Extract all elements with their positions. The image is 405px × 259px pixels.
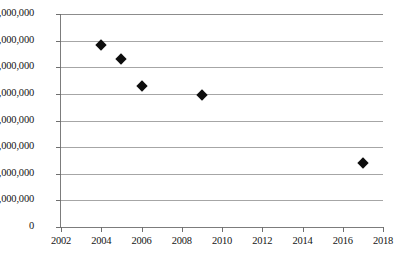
y-axis-label: 8,000,000 (0, 115, 34, 126)
y-axis-tick (56, 94, 61, 95)
y-axis-tick (56, 67, 61, 68)
x-axis-tick (142, 227, 143, 232)
x-axis-tick (101, 227, 102, 232)
y-axis-label: 12,000,000 (0, 61, 34, 72)
y-axis-label: 10,000,000 (0, 88, 34, 99)
y-gridline (61, 41, 383, 42)
x-axis-tick (262, 227, 263, 232)
y-axis-label: 14,000,000 (0, 35, 34, 46)
x-axis-tick (343, 227, 344, 232)
x-axis-tick (222, 227, 223, 232)
y-axis-tick (56, 14, 61, 15)
y-axis-label: 0 (0, 221, 34, 232)
y-gridline (61, 174, 383, 175)
x-axis-tick (61, 227, 62, 232)
y-gridline (61, 14, 383, 15)
y-axis-tick (56, 121, 61, 122)
plot-area: 02,000,0004,000,0006,000,0008,000,00010,… (60, 14, 383, 228)
x-axis-tick (383, 227, 384, 232)
y-axis-label: 16,000,000 (0, 8, 34, 19)
y-gridline (61, 121, 383, 122)
data-point-marker (116, 54, 127, 65)
y-gridline (61, 147, 383, 148)
y-gridline (61, 94, 383, 95)
data-point-marker (357, 157, 368, 168)
y-axis-label: 6,000,000 (0, 141, 34, 152)
x-axis-tick (182, 227, 183, 232)
y-gridline (61, 200, 383, 201)
data-point-marker (196, 90, 207, 101)
y-axis-label: 4,000,000 (0, 168, 34, 179)
y-axis-tick (56, 41, 61, 42)
scatter-chart: 02,000,0004,000,0006,000,0008,000,00010,… (0, 0, 405, 259)
x-axis-label: 2018 (358, 235, 405, 246)
x-axis-tick (303, 227, 304, 232)
y-axis-tick (56, 174, 61, 175)
y-gridline (61, 67, 383, 68)
y-axis-label: 2,000,000 (0, 194, 34, 205)
y-axis-tick (56, 147, 61, 148)
data-point-marker (136, 80, 147, 91)
y-axis-tick (56, 200, 61, 201)
